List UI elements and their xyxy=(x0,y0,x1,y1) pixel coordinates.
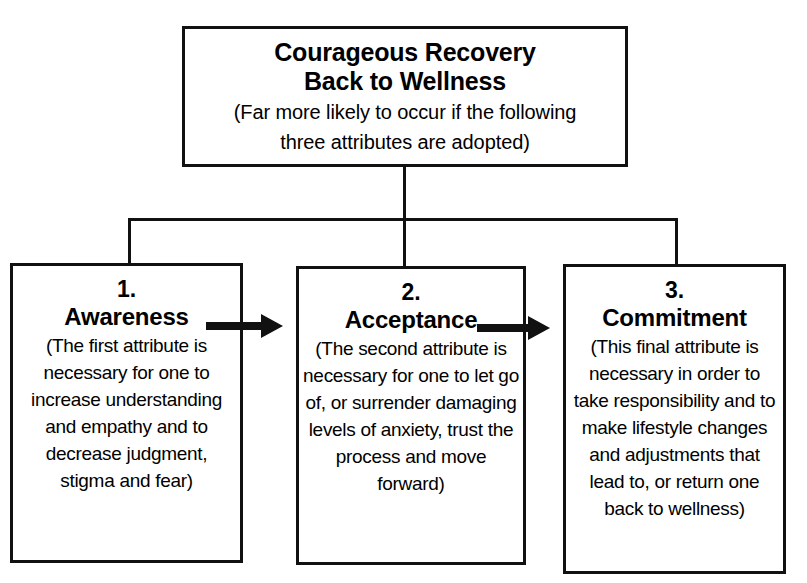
diagram-canvas: Courageous Recovery Back to Wellness (Fa… xyxy=(0,0,807,583)
attribute-number-2: 2. xyxy=(299,279,523,305)
title-heading-line-2: Back to Wellness xyxy=(185,67,625,96)
attribute-number-3: 3. xyxy=(566,277,783,303)
attribute-box-commitment: 3. Commitment (This final attribute is n… xyxy=(563,264,786,574)
title-subtitle-line-1: (Far more likely to occur if the followi… xyxy=(185,96,625,126)
arrow-shaft xyxy=(477,324,533,332)
attribute-box-awareness: 1. Awareness (The first attribute is nec… xyxy=(10,263,243,563)
attribute-description-awareness: (The first attribute is necessary for on… xyxy=(13,332,240,494)
arrow-shaft xyxy=(206,322,266,330)
connector-drop-acceptance xyxy=(403,218,406,268)
title-subtitle-line-2: three attributes are adopted) xyxy=(185,126,625,156)
attribute-description-acceptance: (The second attribute is necessary for o… xyxy=(299,335,523,497)
attribute-box-acceptance: 2. Acceptance (The second attribute is n… xyxy=(296,266,526,565)
arrow-head xyxy=(261,314,283,338)
connector-title-stem xyxy=(403,165,406,221)
connector-drop-awareness xyxy=(128,218,131,265)
attribute-number-1: 1. xyxy=(13,276,240,302)
arrow-head xyxy=(528,316,550,340)
title-heading-line-1: Courageous Recovery xyxy=(185,38,625,67)
attribute-name-commitment: Commitment xyxy=(566,303,783,333)
connector-drop-commitment xyxy=(675,218,678,266)
attribute-description-commitment: (This final attribute is necessary in or… xyxy=(566,333,783,522)
title-box: Courageous Recovery Back to Wellness (Fa… xyxy=(182,26,628,167)
